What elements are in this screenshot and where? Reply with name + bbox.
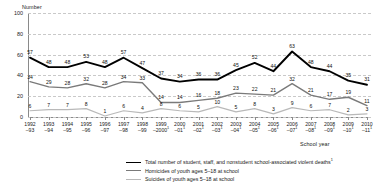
data-label-s2-2004–05: 8 bbox=[247, 101, 263, 107]
data-label-s0-2002–03: 36 bbox=[209, 71, 225, 77]
data-label-s1-2000–01: 14 bbox=[172, 94, 188, 100]
x-tick-4 bbox=[105, 117, 106, 120]
data-label-s1-1992–93: 34 bbox=[22, 74, 38, 80]
legend-label-2: Suicides of youth ages 5–18 at school bbox=[145, 175, 234, 184]
data-label-s0-2001–02: 36 bbox=[191, 71, 207, 77]
data-label-s0-1996–97: 48 bbox=[97, 59, 113, 65]
data-label-s2-1995–96: 8 bbox=[78, 101, 94, 107]
data-label-s1-2008–09: 17 bbox=[322, 91, 338, 97]
y-axis-title: Number bbox=[22, 4, 42, 10]
legend-item-0: Total number of student, staff, and nons… bbox=[126, 158, 333, 167]
data-label-s2-1999–2000: 8 bbox=[153, 101, 169, 107]
data-label-s1-1999–2000: 14 bbox=[153, 94, 169, 100]
data-label-s0-1993–94: 48 bbox=[41, 59, 57, 65]
legend-line-swatch-2 bbox=[126, 179, 141, 180]
x-tick-17 bbox=[348, 117, 349, 120]
y-tick-label-0: 0 bbox=[7, 114, 23, 120]
data-label-s0-2007–08: 48 bbox=[303, 59, 319, 65]
chart-legend: Total number of student, staff, and nons… bbox=[126, 158, 333, 184]
data-label-s0-2008–09: 44 bbox=[322, 63, 338, 69]
y-tick-label-20: 20 bbox=[7, 93, 23, 99]
x-tick-8 bbox=[180, 117, 181, 120]
x-tick-11 bbox=[236, 117, 237, 120]
data-label-s2-2000–01: 6 bbox=[172, 103, 188, 109]
data-label-s2-2001–02: 5 bbox=[191, 104, 207, 110]
data-label-s1-1996–97: 28 bbox=[97, 80, 113, 86]
legend-line-swatch-0 bbox=[126, 162, 141, 163]
data-label-s1-2007–08: 21 bbox=[303, 87, 319, 93]
data-label-s2-1996–97: 1 bbox=[97, 108, 113, 114]
data-label-s2-2003–04: 5 bbox=[228, 104, 244, 110]
data-label-s1-2004–05: 22 bbox=[247, 86, 263, 92]
data-label-s0-2005–06: 44 bbox=[265, 63, 281, 69]
data-label-s1-1997–98: 34 bbox=[116, 74, 132, 80]
x-tick-14 bbox=[292, 117, 293, 120]
data-label-s2-2007–08: 6 bbox=[303, 103, 319, 109]
data-label-s0-2004–05: 52 bbox=[247, 54, 263, 60]
data-label-s2-2009–10: 2 bbox=[340, 107, 356, 113]
legend-line-swatch-1 bbox=[126, 170, 141, 171]
data-label-s0-1999–2000: 37 bbox=[153, 70, 169, 76]
x-tick-label-2010–11: 2010–111 bbox=[355, 121, 379, 134]
y-tick-label-100: 100 bbox=[7, 10, 23, 16]
gridline-0 bbox=[28, 117, 371, 118]
y-tick-label-80: 80 bbox=[7, 31, 23, 37]
data-label-s2-2010–11: 3 bbox=[359, 106, 375, 112]
data-label-s1-2003–04: 23 bbox=[228, 85, 244, 91]
x-tick-10 bbox=[217, 117, 218, 120]
data-label-s0-1992–93: 57 bbox=[22, 49, 38, 55]
data-label-s2-2002–03: 10 bbox=[209, 99, 225, 105]
data-label-s2-1992–93: 6 bbox=[22, 103, 38, 109]
data-label-s1-1993–94: 29 bbox=[41, 79, 57, 85]
x-tick-16 bbox=[330, 117, 331, 120]
data-label-s0-1995–96: 53 bbox=[78, 53, 94, 59]
legend-label-1: Homicides of youth ages 5–18 at school bbox=[145, 167, 239, 176]
data-label-s0-2010–11: 31 bbox=[359, 76, 375, 82]
x-tick-12 bbox=[255, 117, 256, 120]
plot-area: 020406080100 1992–931993–941994–951995–9… bbox=[28, 13, 371, 117]
data-label-s0-2009–10: 35 bbox=[340, 72, 356, 78]
data-label-s0-2003–04: 45 bbox=[228, 62, 244, 68]
x-tick-3 bbox=[86, 117, 87, 120]
x-tick-13 bbox=[273, 117, 274, 120]
data-label-s1-1994–95: 28 bbox=[59, 80, 75, 86]
data-label-s2-2008–09: 7 bbox=[322, 102, 338, 108]
data-label-s0-1994–95: 48 bbox=[59, 59, 75, 65]
data-label-s1-2005–06: 21 bbox=[265, 87, 281, 93]
data-label-s2-1997–98: 6 bbox=[116, 103, 132, 109]
data-label-s2-1998–99: 4 bbox=[134, 105, 150, 111]
legend-label-0: Total number of student, staff, and nons… bbox=[145, 158, 333, 167]
x-tick-7 bbox=[161, 117, 162, 120]
x-tick-1 bbox=[49, 117, 50, 120]
data-label-s1-2002–03: 18 bbox=[209, 90, 225, 96]
data-label-s1-1995–96: 32 bbox=[78, 76, 94, 82]
y-tick-label-40: 40 bbox=[7, 72, 23, 78]
x-tick-0 bbox=[30, 117, 31, 120]
x-tick-15 bbox=[311, 117, 312, 120]
data-label-s0-2000–01: 34 bbox=[172, 73, 188, 79]
data-label-s2-2006–07: 9 bbox=[284, 100, 300, 106]
data-label-s1-2010–11: 11 bbox=[359, 98, 375, 104]
x-tick-6 bbox=[142, 117, 143, 120]
data-label-s1-2006–07: 32 bbox=[284, 76, 300, 82]
y-tick-label-60: 60 bbox=[7, 52, 23, 58]
data-label-s2-1994–95: 7 bbox=[59, 102, 75, 108]
legend-item-2: Suicides of youth ages 5–18 at school bbox=[126, 175, 333, 184]
data-label-s1-2009–10: 19 bbox=[340, 89, 356, 95]
data-label-s0-1997–98: 57 bbox=[116, 49, 132, 55]
x-tick-5 bbox=[124, 117, 125, 120]
x-axis-title: School year bbox=[300, 141, 330, 147]
data-label-s1-2001–02: 16 bbox=[191, 92, 207, 98]
data-label-s0-2006–07: 63 bbox=[284, 43, 300, 49]
x-tick-18 bbox=[367, 117, 368, 120]
data-label-s0-1998–99: 47 bbox=[134, 60, 150, 66]
data-label-s2-2005–06: 3 bbox=[265, 106, 281, 112]
chart-container: Number 020406080100 1992–931993–941994–9… bbox=[0, 0, 379, 195]
legend-item-1: Homicides of youth ages 5–18 at school bbox=[126, 167, 333, 176]
x-tick-2 bbox=[67, 117, 68, 120]
x-tick-9 bbox=[199, 117, 200, 120]
data-label-s2-1993–94: 7 bbox=[41, 102, 57, 108]
data-label-s1-1998–99: 33 bbox=[134, 75, 150, 81]
